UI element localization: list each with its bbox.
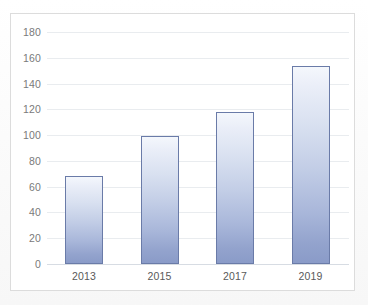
y-axis-tick-label: 140 [23,78,41,90]
x-axis-tick-label: 2019 [281,270,341,282]
y-axis-tick-label: 40 [29,206,41,218]
chart-frame: 0204060801001201401601802013201520172019 [10,13,355,291]
y-axis-tick-label: 60 [29,181,41,193]
y-axis-tick-label: 0 [35,258,41,270]
x-axis-tick-label: 2015 [130,270,190,282]
y-axis-tick-label: 180 [23,26,41,38]
x-axis-tick-label: 2017 [205,270,265,282]
y-axis-tick-label: 160 [23,52,41,64]
gridline [47,32,349,33]
bar[interactable] [141,136,179,264]
y-axis-tick-label: 80 [29,155,41,167]
x-axis-line [47,264,349,265]
y-axis-tick-label: 120 [23,103,41,115]
bar[interactable] [292,66,330,264]
bar[interactable] [216,112,254,264]
bar[interactable] [65,176,103,264]
chart-screenshot: 0204060801001201401601802013201520172019 [0,0,368,305]
x-axis-tick-label: 2013 [54,270,114,282]
plot-area: 0204060801001201401601802013201520172019 [47,32,349,264]
y-axis-tick-label: 100 [23,129,41,141]
y-axis-tick-label: 20 [29,232,41,244]
gridline [47,58,349,59]
